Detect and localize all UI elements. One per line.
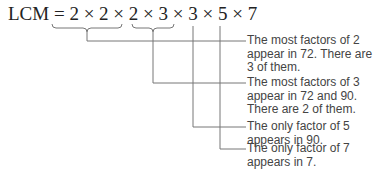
annotation-factor-3: The most factors of 3appear in 72 and 90… bbox=[247, 76, 360, 117]
connector-7 bbox=[220, 26, 246, 149]
connector-3 bbox=[153, 32, 246, 83]
annotation-factor-2: The most factors of 2appear in 72. There… bbox=[247, 34, 372, 75]
brace-factors-3 bbox=[132, 24, 174, 32]
connector-2 bbox=[87, 32, 246, 41]
annotation-factor-7: The only factor of 7appears in 7. bbox=[247, 142, 350, 169]
brace-factors-2 bbox=[52, 24, 122, 32]
